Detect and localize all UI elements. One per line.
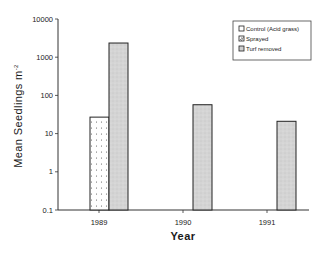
bar-turf-removed-1991	[277, 121, 296, 210]
legend-swatch-control	[239, 26, 244, 31]
x-axis-title: Year	[170, 230, 195, 242]
x-tick-label: 1989	[91, 218, 108, 227]
bar-sprayed-1989	[90, 117, 109, 210]
y-tick-label: 10	[45, 129, 53, 138]
bars	[90, 43, 296, 210]
y-axis-title: Mean Seedlings m-2	[12, 64, 24, 168]
x-tick-label: 1990	[175, 218, 192, 227]
legend: Control (Acid grass) Sprayed Turf remove…	[233, 21, 311, 60]
y-tick-label: 100	[40, 91, 53, 100]
x-ticks: 198919901991	[91, 210, 276, 227]
y-tick-label: 0.1	[43, 206, 53, 215]
legend-label-control: Control (Acid grass)	[246, 26, 299, 32]
y-tick-label: 1000	[36, 53, 53, 62]
bar-turf-removed-1990	[193, 105, 212, 210]
y-tick-label: 1	[49, 167, 53, 176]
chart: Mean Seedlings m-2 1000010001001010.1 19…	[0, 0, 329, 253]
x-tick-label: 1991	[259, 218, 276, 227]
legend-swatch-turf	[239, 46, 244, 51]
svg-text:Mean Seedlings m-2: Mean Seedlings m-2	[12, 64, 24, 168]
bar-turf-removed-1989	[109, 43, 128, 210]
y-tick-label: 10000	[32, 15, 53, 24]
legend-label-turf: Turf removed	[246, 46, 281, 52]
y-ticks: 1000010001001010.1	[32, 15, 58, 215]
legend-label-sprayed: Sprayed	[246, 36, 268, 42]
